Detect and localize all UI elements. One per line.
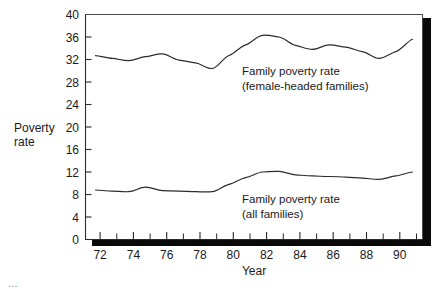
- upper-series-annotation: Family poverty rate (female-headed famil…: [242, 65, 369, 92]
- clipped-caption-sliver: ...: [0, 285, 445, 289]
- x-tick-label-88: 88: [360, 248, 374, 262]
- clipped-caption-text: ...: [8, 285, 445, 289]
- y-tick-label-24: 24: [66, 98, 80, 112]
- x-tick-label-90: 90: [393, 248, 407, 262]
- x-tick-label-86: 86: [327, 248, 341, 262]
- plot-shadow-bottom: [92, 240, 431, 246]
- y-tick-label-0: 0: [72, 233, 79, 247]
- x-tick-label-82: 82: [260, 248, 274, 262]
- y-axis-ticks: [86, 37, 92, 240]
- upper-series-annotation-line2: (female-headed families): [242, 80, 369, 92]
- plot-frame: [86, 15, 423, 240]
- lower-series-annotation: Family poverty rate (all families): [242, 193, 340, 220]
- plot-shadow-right: [423, 18, 431, 246]
- x-axis-title: Year: [242, 264, 266, 278]
- x-tick-label-80: 80: [227, 248, 241, 262]
- upper-series-annotation-line1: Family poverty rate: [242, 65, 340, 77]
- y-tick-label-16: 16: [66, 143, 80, 157]
- y-tick-label-40: 40: [66, 8, 80, 22]
- y-tick-label-4: 4: [72, 211, 79, 225]
- y-tick-label-36: 36: [66, 31, 80, 45]
- series-line-female-headed-families: [96, 35, 413, 68]
- x-tick-label-78: 78: [193, 248, 207, 262]
- x-axis-ticks: [100, 232, 416, 240]
- lower-series-annotation-line1: Family poverty rate: [242, 193, 340, 205]
- x-tick-label-72: 72: [93, 248, 107, 262]
- x-tick-label-84: 84: [293, 248, 307, 262]
- series-line-all-families: [96, 171, 413, 192]
- y-axis-title-line1: Poverty: [14, 121, 55, 135]
- y-tick-label-32: 32: [66, 53, 80, 67]
- x-tick-label-76: 76: [160, 248, 174, 262]
- y-tick-label-12: 12: [66, 166, 80, 180]
- y-tick-label-20: 20: [66, 121, 80, 135]
- y-axis-title-line2: rate: [14, 135, 35, 149]
- x-tick-label-74: 74: [127, 248, 141, 262]
- lower-series-annotation-line2: (all families): [242, 208, 304, 220]
- y-tick-label-8: 8: [72, 188, 79, 202]
- y-axis-tick-labels: 40 36 32 28 24 20 16 12 8 4 0: [66, 8, 80, 247]
- y-tick-label-28: 28: [66, 76, 80, 90]
- y-axis-title: Poverty rate: [14, 121, 55, 149]
- chart-figure: 40 36 32 28 24 20 16 12 8 4 0 Poverty ra…: [0, 0, 445, 289]
- x-axis-tick-labels: 72 74 76 78 80 82 84 86 88 90: [93, 248, 406, 262]
- poverty-rate-line-chart: 40 36 32 28 24 20 16 12 8 4 0 Poverty ra…: [0, 0, 445, 289]
